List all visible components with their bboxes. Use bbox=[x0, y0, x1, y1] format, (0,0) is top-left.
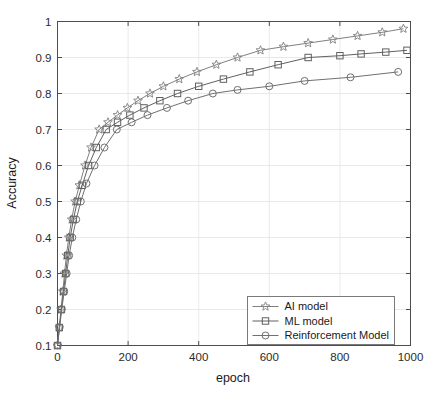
y-tick-label: 0.9 bbox=[36, 52, 52, 64]
legend-entry-label: Reinforcement Model bbox=[285, 329, 390, 341]
x-tick-label: 0 bbox=[54, 351, 60, 363]
x-tick-label: 200 bbox=[119, 351, 138, 363]
y-tick-label: 0.5 bbox=[36, 196, 52, 208]
y-axis-title: Accuracy bbox=[5, 157, 19, 209]
y-tick-label: 0.8 bbox=[36, 88, 52, 100]
y-tick-label: 0.2 bbox=[36, 304, 52, 316]
y-tick-label: 0.1 bbox=[36, 340, 52, 352]
legend-entry-label: ML model bbox=[285, 315, 333, 327]
x-axis-title: epoch bbox=[216, 371, 250, 385]
y-tick-label: 0.4 bbox=[36, 232, 53, 244]
y-tick-label: 0.7 bbox=[36, 124, 52, 136]
y-tick-label: 1 bbox=[45, 16, 51, 28]
legend-entry-label: AI model bbox=[285, 300, 328, 312]
x-tick-label: 400 bbox=[189, 351, 208, 363]
chart-figure: 020040060080010000.10.20.30.40.50.60.70.… bbox=[0, 0, 433, 401]
y-tick-label: 0.6 bbox=[36, 160, 52, 172]
x-tick-label: 600 bbox=[260, 351, 279, 363]
chart-legend[interactable]: AI modelML modelReinforcement Model bbox=[248, 297, 395, 345]
x-tick-label: 800 bbox=[330, 351, 349, 363]
y-tick-label: 0.3 bbox=[36, 268, 52, 280]
x-tick-label: 1000 bbox=[398, 351, 424, 363]
accuracy-vs-epoch-chart: 020040060080010000.10.20.30.40.50.60.70.… bbox=[0, 0, 433, 401]
